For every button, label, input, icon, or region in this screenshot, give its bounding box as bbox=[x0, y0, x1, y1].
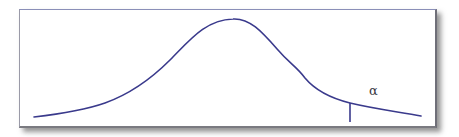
alpha-label: α bbox=[369, 84, 378, 97]
distribution-plot bbox=[0, 0, 459, 137]
density-curve bbox=[34, 19, 421, 117]
